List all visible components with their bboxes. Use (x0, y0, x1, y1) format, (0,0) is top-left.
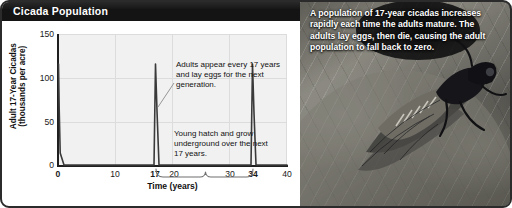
y-axis-label-line1: Adult 17-Year Cicadas (9, 26, 18, 146)
x-tick-20: 20 (169, 169, 179, 179)
y-tick-100: 100 (24, 73, 54, 83)
y-tick-labels: 150 100 50 0 (22, 21, 54, 181)
cicada-photo-panel: A population of 17-year cicadas increase… (300, 2, 510, 206)
y-tick-0: 0 (24, 160, 54, 170)
chart-panel: Adult 17-Year Cicadas (thousands per acr… (2, 21, 300, 206)
gridline-v-20 (172, 34, 173, 166)
x-tick-0: 0 (56, 169, 61, 179)
gridline-v-40 (286, 34, 287, 166)
annotation-young-hatch: Young hatch and grow underground over th… (174, 129, 276, 160)
photo-caption: A population of 17-year cicadas increase… (310, 8, 500, 53)
x-tick-10: 10 (110, 169, 120, 179)
x-axis-line (57, 165, 288, 167)
page-title: Cicada Population (13, 5, 108, 17)
x-tick-17: 17 (150, 169, 160, 179)
cicada-population-figure: Cicada Population Adult 17-Year Cicadas … (0, 0, 512, 208)
annotation-adults-appear: Adults appear every 17 years and lay egg… (176, 60, 288, 91)
cicada-eye (486, 68, 494, 76)
y-axis-line (57, 34, 59, 167)
x-tick-40: 40 (282, 169, 292, 179)
y-tick-150: 150 (24, 29, 54, 39)
x-axis-label: Time (years) (58, 181, 287, 191)
x-tick-30: 30 (225, 169, 235, 179)
gridline-v-10 (115, 34, 116, 166)
y-tick-50: 50 (24, 117, 54, 127)
x-tick-34: 34 (248, 169, 258, 179)
